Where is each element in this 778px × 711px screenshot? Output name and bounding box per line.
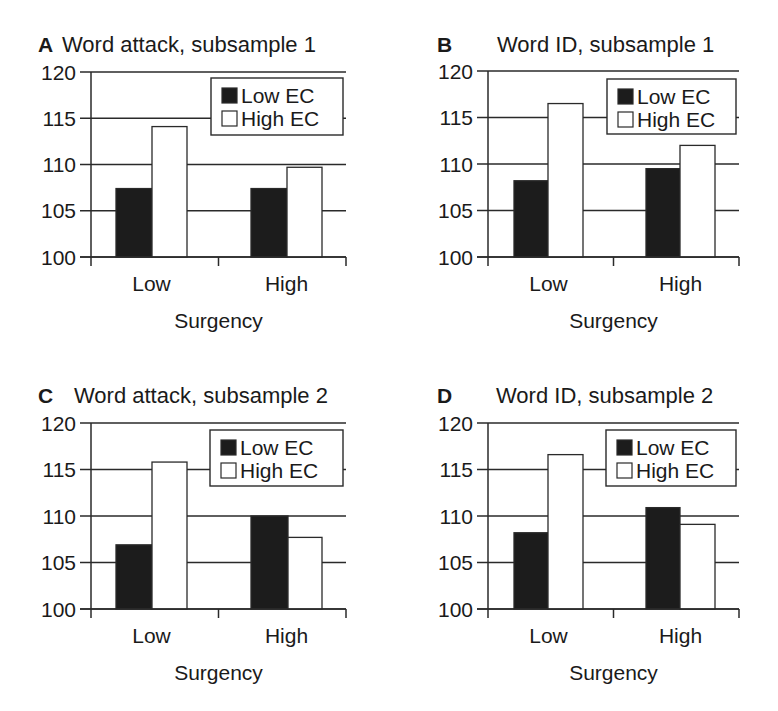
x-category-label: High (265, 272, 308, 295)
panel-title: Word attack, subsample 1 (62, 32, 316, 57)
legend-label: High EC (636, 459, 714, 482)
y-tick-label: 120 (41, 61, 76, 84)
bar-high-ec (288, 537, 322, 609)
legend-swatch-low-ec-icon (617, 440, 632, 455)
x-category-label: High (265, 624, 308, 647)
y-tick-label: 115 (440, 106, 473, 129)
legend-label: Low EC (240, 436, 314, 459)
panel-title: Word ID, subsample 1 (497, 32, 714, 57)
figure-canvas: AWord attack, subsample 1100105110115120… (0, 0, 778, 711)
legend-swatch-high-ec-icon (222, 111, 237, 126)
panel-letter: B (437, 33, 452, 56)
panel-letter: D (437, 384, 452, 407)
bar-low-ec (251, 189, 287, 257)
x-category-label: Low (529, 624, 568, 647)
x-category-label: Low (132, 624, 171, 647)
legend-swatch-high-ec-icon (618, 112, 633, 127)
legend-swatch-low-ec-icon (618, 89, 633, 104)
chart-panel-a: AWord attack, subsample 1100105110115120… (38, 32, 346, 332)
x-category-label: High (659, 272, 702, 295)
chart-panel-b: BWord ID, subsample 1100105110115120LowH… (437, 32, 739, 332)
y-tick-label: 115 (43, 458, 76, 481)
y-tick-label: 110 (43, 505, 76, 528)
bar-high-ec (287, 167, 322, 257)
y-tick-label: 105 (438, 199, 473, 222)
bar-low-ec (646, 508, 680, 609)
y-tick-label: 120 (438, 60, 473, 83)
y-tick-label: 105 (41, 199, 76, 222)
legend-swatch-low-ec-icon (221, 440, 236, 455)
panel-title: Word ID, subsample 2 (496, 383, 713, 408)
x-category-label: High (659, 624, 702, 647)
panel-title: Word attack, subsample 2 (74, 383, 328, 408)
bar-high-ec (548, 104, 583, 257)
y-tick-label: 115 (440, 458, 473, 481)
panel-letter: A (38, 33, 53, 56)
bar-low-ec (116, 545, 152, 609)
x-axis-title: Surgency (174, 661, 263, 684)
legend-label: High EC (240, 459, 318, 482)
y-tick-label: 110 (440, 505, 473, 528)
legend-swatch-high-ec-icon (617, 463, 632, 478)
legend: Low ECHigh EC (606, 430, 736, 486)
y-tick-label: 100 (438, 246, 473, 269)
bar-high-ec (152, 127, 187, 257)
legend-label: High EC (637, 108, 715, 131)
legend-label: High EC (241, 107, 319, 130)
bar-high-ec (152, 462, 187, 609)
x-axis-title: Surgency (569, 661, 658, 684)
bar-high-ec (680, 524, 715, 609)
y-tick-label: 120 (438, 412, 473, 435)
y-tick-label: 105 (41, 551, 76, 574)
legend-label: Low EC (637, 85, 711, 108)
bar-low-ec (251, 516, 288, 609)
y-tick-label: 115 (43, 107, 76, 130)
legend-swatch-low-ec-icon (222, 88, 237, 103)
y-tick-label: 100 (41, 598, 76, 621)
bar-low-ec (514, 533, 548, 609)
y-tick-label: 120 (41, 412, 76, 435)
bar-low-ec (646, 169, 680, 257)
bar-high-ec (680, 145, 715, 257)
bar-high-ec (548, 455, 583, 609)
x-category-label: Low (132, 272, 171, 295)
bar-low-ec (514, 181, 548, 257)
chart-panel-d: DWord ID, subsample 2100105110115120LowH… (437, 383, 739, 684)
x-axis-title: Surgency (569, 309, 658, 332)
y-tick-label: 110 (440, 153, 473, 176)
legend: Low ECHigh EC (607, 79, 736, 134)
y-tick-label: 100 (41, 246, 76, 269)
legend-label: Low EC (636, 436, 710, 459)
bar-low-ec (116, 189, 152, 257)
chart-panel-c: CWord attack, subsample 2100105110115120… (38, 383, 346, 684)
x-category-label: Low (529, 272, 568, 295)
x-axis-title: Surgency (174, 309, 263, 332)
legend: Low ECHigh EC (210, 430, 343, 486)
legend-label: Low EC (241, 84, 315, 107)
y-tick-label: 110 (43, 153, 76, 176)
y-tick-label: 105 (438, 551, 473, 574)
legend: Low ECHigh EC (211, 78, 343, 135)
y-tick-label: 100 (438, 598, 473, 621)
legend-swatch-high-ec-icon (221, 463, 236, 478)
panel-letter: C (38, 384, 53, 407)
